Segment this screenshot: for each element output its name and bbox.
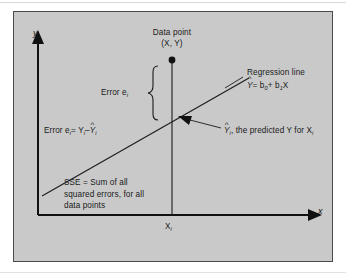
error-brace-text: Error e — [101, 88, 127, 97]
predicted-value-label: ^Yi, the predicted Y for Xi — [224, 126, 313, 137]
x-tick-subscript: i — [171, 226, 172, 232]
regression-eq-sub0: 0 — [264, 85, 267, 91]
error-brace-subscript: i — [127, 92, 128, 98]
error-brace — [148, 66, 158, 120]
regression-yhat: ^Y — [247, 81, 253, 92]
regression-eq-part1: = b — [253, 81, 265, 90]
predicted-subscript: i — [230, 130, 231, 136]
predicted-pointer-line — [190, 120, 221, 128]
x-axis-label: x — [318, 206, 323, 217]
regression-line-label: Regression line ^Y= b0+ b1X — [247, 68, 333, 91]
error-eq-equals: = Y — [71, 126, 84, 135]
data-point-marker — [169, 57, 176, 64]
hat-accent-icon: ^ — [91, 122, 95, 128]
sse-line2: squared errors, for all — [64, 189, 194, 201]
data-point-label-line2: (X, Y) — [124, 39, 220, 50]
error-eq-sub2: i — [84, 130, 85, 136]
hat-accent-icon: ^ — [248, 76, 252, 82]
error-eq-sub1: i — [70, 130, 71, 136]
error-brace-label: Error ei — [101, 88, 128, 99]
error-eq-prefix: Error e — [44, 126, 70, 135]
error-equation-label: Error ei= Yi–^Yi — [44, 126, 97, 137]
predicted-yhat: ^Y — [224, 126, 230, 137]
sse-line1: SSE = Sum of all — [64, 177, 194, 189]
regression-eq-sub1: 1 — [280, 85, 283, 91]
sse-line3: data points — [64, 200, 194, 212]
regression-equation: ^Y= b0+ b1X — [247, 81, 333, 92]
regression-label-line1: Regression line — [247, 68, 305, 77]
predicted-text: , the predicted Y for X — [231, 126, 312, 135]
regression-eq-part2: + b — [268, 81, 280, 90]
predicted-pointer-arrowhead — [178, 116, 192, 125]
regression-eq-part3: X — [283, 81, 289, 90]
error-eq-sub3: i — [95, 130, 96, 136]
hat-accent-icon: ^ — [225, 122, 229, 128]
sse-explanation-label: SSE = Sum of all squared errors, for all… — [64, 177, 194, 212]
data-point-label: Data point (X, Y) — [124, 28, 220, 49]
regression-sse-figure: Data point (X, Y) Error ei Regression li… — [0, 0, 346, 277]
y-axis-label: y — [33, 28, 38, 39]
predicted-trailing-subscript: i — [312, 130, 313, 136]
data-point-label-line1: Data point — [153, 28, 191, 37]
x-tick-letter: X — [165, 222, 171, 231]
x-tick-label: Xi — [165, 222, 172, 233]
